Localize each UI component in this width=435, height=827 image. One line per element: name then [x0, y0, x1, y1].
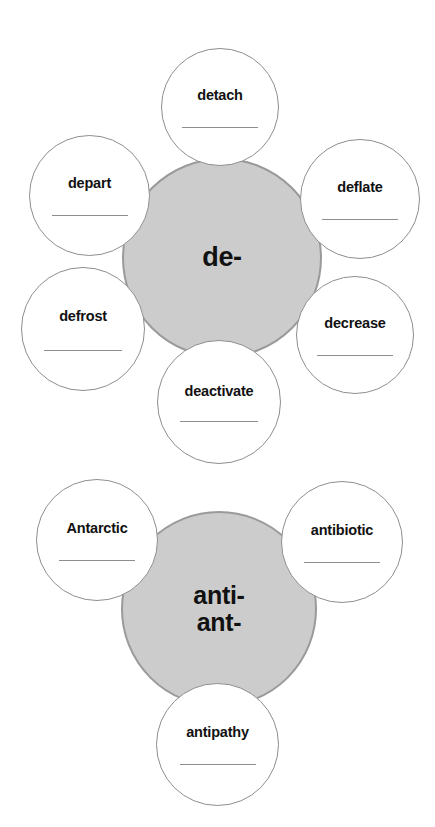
answer-blank-line[interactable]	[52, 215, 128, 216]
prefix-diagram-de: de- detach depart deflate defrost decrea…	[0, 0, 435, 465]
word-node-antipathy[interactable]: antipathy	[156, 683, 279, 806]
word-label-antibiotic: antibiotic	[311, 522, 373, 538]
word-label-decrease: decrease	[324, 315, 385, 331]
word-node-deactivate[interactable]: deactivate	[157, 340, 281, 464]
word-node-antibiotic[interactable]: antibiotic	[281, 481, 403, 603]
center-label-de: de-	[202, 243, 242, 272]
word-node-deflate[interactable]: deflate	[300, 139, 420, 259]
word-node-detach[interactable]: detach	[161, 48, 279, 166]
answer-blank-line[interactable]	[304, 562, 380, 563]
word-label-antarctic: Antarctic	[66, 520, 127, 536]
word-node-decrease[interactable]: decrease	[296, 276, 414, 394]
word-label-depart: depart	[68, 175, 111, 191]
answer-blank-line[interactable]	[322, 219, 398, 220]
center-label-anti-line1: anti-	[193, 582, 244, 609]
center-node-de: de-	[122, 158, 322, 358]
word-label-antipathy: antipathy	[186, 724, 249, 740]
prefix-worksheet: de- detach depart deflate defrost decrea…	[0, 0, 435, 827]
prefix-diagram-anti: anti- ant- Antarctic antibiotic antipath…	[0, 465, 435, 827]
answer-blank-line[interactable]	[182, 127, 258, 128]
word-node-depart[interactable]: depart	[29, 135, 150, 256]
word-node-defrost[interactable]: defrost	[21, 267, 145, 391]
word-node-antarctic[interactable]: Antarctic	[36, 479, 158, 601]
word-label-defrost: defrost	[59, 308, 107, 324]
word-label-detach: detach	[197, 87, 243, 103]
center-label-anti-line2: ant-	[197, 609, 242, 636]
answer-blank-line[interactable]	[317, 355, 393, 356]
word-label-deflate: deflate	[337, 179, 382, 195]
answer-blank-line[interactable]	[180, 764, 256, 765]
answer-blank-line[interactable]	[44, 350, 122, 351]
answer-blank-line[interactable]	[59, 560, 135, 561]
word-label-deactivate: deactivate	[185, 383, 254, 399]
answer-blank-line[interactable]	[180, 421, 258, 422]
